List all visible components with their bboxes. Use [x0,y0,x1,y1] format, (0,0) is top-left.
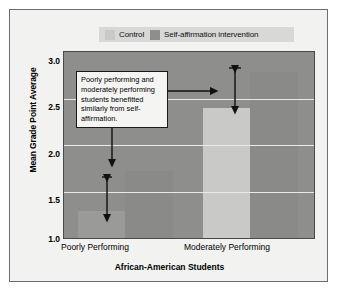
gridline-2 [64,145,314,146]
bar-intervention-moderately [250,72,298,238]
y-tick-1-5: 1.5 [32,195,60,205]
chart-figure: Control Self-affirmation intervention Me… [9,9,328,282]
legend-item-control: Control [105,30,144,40]
control-swatch-icon [105,30,115,40]
y-tick-2-5: 2.5 [32,102,60,112]
bar-control-poorly [78,211,126,238]
legend-label-intervention: Self-affirmation intervention [164,30,258,39]
intervention-swatch-icon [150,30,160,40]
bar-control-moderately [203,108,251,238]
y-tick-2: 2.0 [32,149,60,159]
y-tick-3: 3.0 [32,56,60,66]
legend-item-intervention: Self-affirmation intervention [150,30,258,40]
callout-annotation: Poorly performing and moderately perform… [76,71,168,128]
x-category-moderately: Moderately Performing [162,242,292,252]
x-axis-title: African-American Students [10,262,329,272]
x-category-poorly: Poorly Performing [30,242,160,252]
chart-legend: Control Self-affirmation intervention [99,27,294,42]
legend-label-control: Control [119,30,144,39]
y-axis-title: Mean Grade Point Average [28,45,38,195]
bar-intervention-poorly [125,171,173,238]
gridline-1-5 [64,192,314,193]
